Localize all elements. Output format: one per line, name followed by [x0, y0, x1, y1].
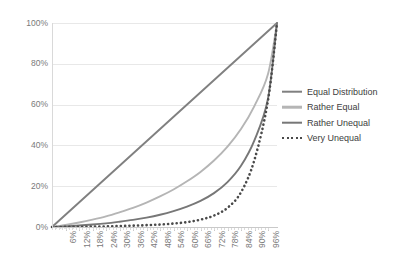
legend-swatch-icon: [282, 118, 302, 128]
x-axis-minor-tick: [228, 228, 229, 230]
x-axis-minor-tick: [103, 228, 104, 230]
x-axis-minor-tick: [79, 228, 80, 230]
x-axis-tick-label: 78%: [231, 231, 240, 248]
x-axis-minor-tick: [140, 228, 141, 230]
x-axis-minor-tick: [66, 228, 67, 230]
x-axis-minor-tick: [76, 228, 77, 230]
legend-item-label: Rather Equal: [307, 102, 360, 112]
x-axis-minor-tick: [99, 228, 100, 230]
x-axis-minor-tick: [261, 228, 262, 230]
x-axis-minor-tick: [217, 228, 218, 230]
x-axis-minor-tick: [59, 228, 60, 230]
x-axis-minor-tick: [72, 228, 73, 230]
x-axis-minor-tick: [143, 228, 144, 230]
x-axis-minor-tick: [120, 228, 121, 230]
chart-legend: Equal DistributionRather EqualRather Une…: [282, 84, 414, 146]
x-axis-minor-tick: [241, 228, 242, 230]
legend-swatch-icon: [282, 102, 302, 112]
x-axis-minor-tick: [96, 228, 97, 230]
x-axis-minor-tick: [265, 228, 266, 230]
x-axis-minor-tick: [187, 228, 188, 230]
legend-item[interactable]: Rather Unequal: [282, 115, 414, 131]
x-axis-minor-tick: [160, 228, 161, 230]
x-axis-minor-tick: [248, 228, 249, 230]
legend-item[interactable]: Rather Equal: [282, 100, 414, 116]
legend-swatch-icon: [282, 87, 302, 97]
x-axis-minor-tick: [255, 228, 256, 230]
x-axis-tick-label: 66%: [204, 231, 213, 248]
x-axis-minor-tick: [207, 228, 208, 230]
x-axis-tick-label: 54%: [177, 231, 186, 248]
y-axis-tick-label: 80%: [4, 59, 48, 68]
x-axis-minor-tick: [130, 228, 131, 230]
x-axis-minor-tick: [150, 228, 151, 230]
x-axis-minor-tick: [211, 228, 212, 230]
x-axis-tick-label: 72%: [218, 231, 227, 248]
x-axis-minor-tick: [82, 228, 83, 230]
x-axis-minor-tick: [194, 228, 195, 230]
x-axis-minor-tick: [201, 228, 202, 230]
x-axis-tick-label: 6%: [69, 231, 78, 243]
x-axis-minor-tick: [109, 228, 110, 230]
x-axis-minor-tick: [234, 228, 235, 230]
legend-item-label: Very Unequal: [307, 133, 361, 143]
x-axis-minor-tick: [113, 228, 114, 230]
x-axis-minor-tick: [167, 228, 168, 230]
x-axis-minor-tick: [62, 228, 63, 230]
x-axis-minor-tick: [197, 228, 198, 230]
x-axis-minor-tick: [163, 228, 164, 230]
x-axis-minor-tick: [69, 228, 70, 230]
x-axis-tick-label: 42%: [150, 231, 159, 248]
x-axis-minor-tick: [174, 228, 175, 230]
x-axis-minor-tick: [268, 228, 269, 230]
x-axis-minor-tick: [147, 228, 148, 230]
x-axis-tick-label: 24%: [110, 231, 119, 248]
x-axis-minor-tick: [170, 228, 171, 230]
x-axis-minor-tick: [214, 228, 215, 230]
x-axis-tick-label: 90%: [258, 231, 267, 248]
legend-item-label: Rather Unequal: [307, 118, 370, 128]
x-axis-minor-tick: [231, 228, 232, 230]
legend-item-label: Equal Distribution: [307, 87, 378, 97]
x-axis-tick-label: 48%: [164, 231, 173, 248]
x-axis-minor-tick: [133, 228, 134, 230]
x-axis-minor-tick: [251, 228, 252, 230]
x-axis-minor-tick: [123, 228, 124, 230]
x-axis-minor-tick: [153, 228, 154, 230]
x-axis-minor-tick: [93, 228, 94, 230]
legend-item[interactable]: Equal Distribution: [282, 84, 414, 100]
y-axis-tick-label: 20%: [4, 182, 48, 191]
legend-item[interactable]: Very Unequal: [282, 131, 414, 147]
x-axis-minor-tick: [126, 228, 127, 230]
x-axis-tick-label: 30%: [123, 231, 132, 248]
x-axis-tick-label: 96%: [272, 231, 281, 248]
x-axis-minor-tick: [221, 228, 222, 230]
x-axis-minor-tick: [116, 228, 117, 230]
x-axis-minor-tick: [106, 228, 107, 230]
x-axis-minor-tick: [55, 228, 56, 230]
x-axis-minor-tick: [177, 228, 178, 230]
x-axis-minor-tick: [184, 228, 185, 230]
x-axis-minor-tick: [238, 228, 239, 230]
lorenz-curve-chart: 0%20%40%60%80%100% 6%12%18%24%30%36%42%4…: [0, 0, 414, 274]
x-axis-minor-tick: [204, 228, 205, 230]
x-axis-tick-label: 36%: [137, 231, 146, 248]
y-axis-line: [52, 23, 53, 228]
x-axis-minor-tick: [157, 228, 158, 230]
x-axis-minor-tick: [52, 228, 53, 230]
x-axis-minor-tick: [190, 228, 191, 230]
x-axis-minor-tick: [89, 228, 90, 230]
x-axis-tick-label: 60%: [191, 231, 200, 248]
x-axis-minor-tick: [244, 228, 245, 230]
y-axis-tick-label: 60%: [4, 100, 48, 109]
y-axis-tick-label: 100%: [4, 19, 48, 28]
curves-container: [52, 23, 277, 227]
x-axis-tick-label: 18%: [96, 231, 105, 248]
plot-area: [52, 23, 277, 227]
x-axis-minor-tick: [224, 228, 225, 230]
x-axis-minor-tick: [136, 228, 137, 230]
y-axis-tick-label: 0%: [4, 223, 48, 232]
x-axis-tick-label: 12%: [83, 231, 92, 248]
y-axis-labels: 0%20%40%60%80%100%: [0, 0, 48, 274]
x-axis-minor-tick: [258, 228, 259, 230]
